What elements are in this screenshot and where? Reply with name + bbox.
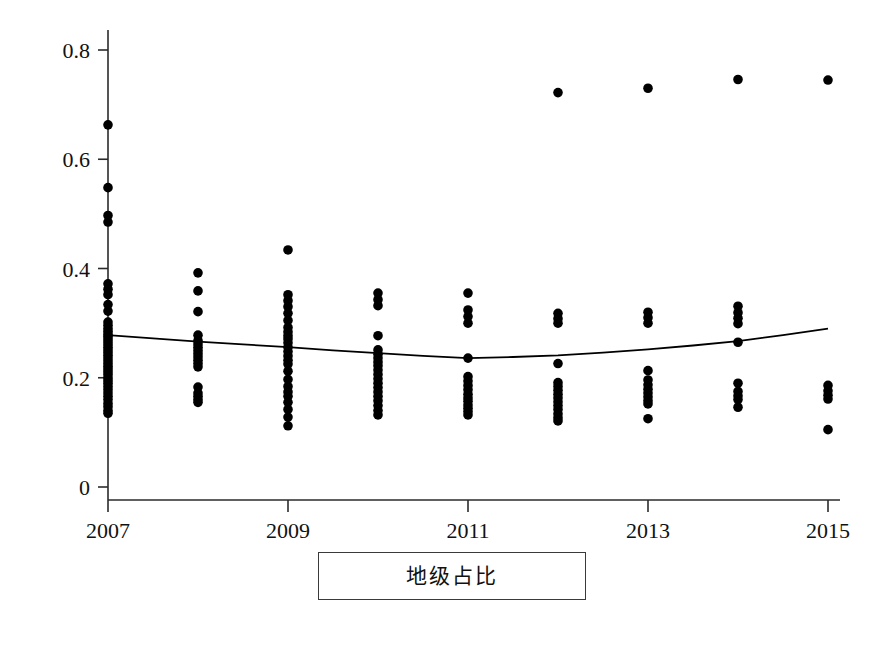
data-point	[283, 366, 293, 376]
data-point	[553, 88, 563, 98]
data-point	[733, 378, 743, 388]
data-point	[193, 398, 203, 408]
data-point	[193, 286, 203, 296]
data-point	[823, 394, 833, 404]
y-tick-label: 0.2	[63, 366, 91, 391]
data-point	[103, 290, 113, 300]
data-point	[463, 318, 473, 328]
data-point	[733, 402, 743, 412]
data-point	[193, 362, 203, 372]
y-tick-label: 0.6	[63, 147, 91, 172]
data-point	[193, 307, 203, 317]
data-point	[643, 366, 653, 376]
data-point	[553, 416, 563, 426]
data-point	[823, 75, 833, 85]
x-tick-label: 2015	[806, 518, 850, 543]
x-tick-label: 2007	[86, 518, 130, 543]
data-point	[103, 120, 113, 130]
x-tick-label: 2009	[266, 518, 310, 543]
data-point	[463, 410, 473, 420]
data-point	[373, 301, 383, 311]
x-axis-ticks	[108, 500, 828, 512]
data-point	[643, 318, 653, 328]
data-point	[103, 217, 113, 227]
y-axis-tick-labels: 00.20.40.60.8	[63, 38, 91, 500]
data-point	[103, 408, 113, 418]
data-point	[553, 359, 563, 369]
data-point	[103, 306, 113, 316]
scatter-plot-figure: 00.20.40.60.8 20072009201120132015 地级占比	[0, 0, 893, 650]
data-point	[193, 268, 203, 278]
data-point	[823, 425, 833, 435]
data-points-group	[103, 75, 833, 435]
x-tick-label: 2011	[446, 518, 489, 543]
y-tick-label: 0.4	[63, 257, 91, 282]
data-point	[103, 183, 113, 193]
data-point	[283, 421, 293, 431]
data-point	[463, 353, 473, 363]
data-point	[553, 318, 563, 328]
data-point	[643, 399, 653, 409]
data-point	[283, 245, 293, 255]
data-point	[733, 319, 743, 329]
data-point	[733, 75, 743, 85]
y-tick-label: 0	[79, 475, 90, 500]
data-point	[643, 83, 653, 93]
x-tick-label: 2013	[626, 518, 670, 543]
x-axis-tick-labels: 20072009201120132015	[86, 518, 850, 543]
y-tick-label: 0.8	[63, 38, 91, 63]
caption-box: 地级占比	[318, 552, 586, 600]
data-point	[283, 412, 293, 422]
data-point	[463, 288, 473, 298]
data-point	[733, 337, 743, 347]
data-point	[643, 414, 653, 424]
y-axis-ticks	[98, 50, 108, 487]
axes-frame	[108, 30, 840, 500]
data-point	[373, 410, 383, 420]
data-point	[373, 331, 383, 341]
caption-label: 地级占比	[406, 566, 498, 587]
